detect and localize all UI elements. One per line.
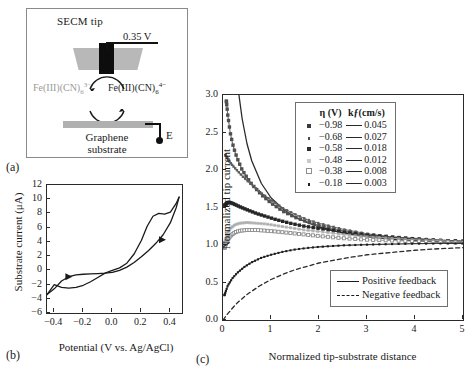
panel-b-x-tick <box>169 308 170 312</box>
kinetics-legend-marker-icon <box>301 131 317 143</box>
panel-c-y-tick-label: 2.5 <box>192 126 218 137</box>
kinetics-legend: η (V) kƒ(cm/s) −0.980.045−0.680.027−0.58… <box>295 102 396 193</box>
panel-c-x-tick <box>270 315 271 319</box>
species-left-superscript: 3− <box>84 81 91 89</box>
kinetics-legend-kf-value: 0.027 <box>364 131 387 142</box>
panel-b-y-tick <box>46 298 50 299</box>
positive-feedback-line-icon <box>337 281 359 282</box>
negative-feedback-line-icon <box>337 295 359 296</box>
panel-label-b: (b) <box>6 348 20 363</box>
kinetics-legend-kf-value: 0.012 <box>364 154 387 165</box>
kinetics-legend-eta-value: −0.98 <box>317 119 344 131</box>
panel-c-approach-curves: 0.00.51.01.52.02.53.0012345 Normalized t… <box>190 88 474 381</box>
kinetics-legend-eta-value: −0.68 <box>317 131 344 143</box>
panel-b-x-tick-label: −0.4 <box>38 316 68 327</box>
panel-c-x-axis-title: Normalized tip-substrate distance <box>210 350 474 362</box>
legend-header-kf: kƒ(cm/s) <box>344 106 389 119</box>
legend-header-spacer <box>301 106 317 119</box>
kinetics-legend-line-icon <box>346 171 362 172</box>
tip-potential-label: 0.35 V <box>123 31 151 42</box>
panel-c-y-tick-label: 2.0 <box>192 163 218 174</box>
panel-c-y-tick-label: 1.5 <box>192 201 218 212</box>
panel-b-curves <box>47 185 182 313</box>
panel-b-x-tick-label: 0.0 <box>96 316 126 327</box>
kinetics-legend-body: −0.980.045−0.680.027−0.580.018−0.480.012… <box>301 119 389 188</box>
graphene-substrate-icon <box>63 121 153 128</box>
kinetics-legend-eta-value: −0.58 <box>317 142 344 154</box>
kinetics-legend-line-icon <box>346 148 362 149</box>
panel-b-y-tick <box>46 269 50 270</box>
kinetics-legend-eta-value: −0.38 <box>317 165 344 177</box>
kinetics-legend-kf-cell: 0.003 <box>344 177 389 189</box>
panel-c-x-tick-label: 1 <box>258 323 282 334</box>
panel-c-x-tick <box>318 315 319 319</box>
panel-b-x-tick-label: −0.2 <box>67 316 97 327</box>
panel-label-a: (a) <box>6 160 19 175</box>
kinetics-legend-kf-cell: 0.012 <box>344 154 389 166</box>
kinetics-legend-line-icon <box>346 160 362 161</box>
panel-c-x-tick-label: 2 <box>306 323 330 334</box>
species-right-formula: Fe(III)(CN) <box>108 82 155 93</box>
panel-c-x-tick-label: 0 <box>210 323 234 334</box>
panel-b-x-axis-title: Potential (V vs. Ag/AgCl) <box>36 341 196 353</box>
panel-b-y-tick <box>46 284 50 285</box>
panel-b-y-tick <box>46 312 50 313</box>
tip-wire-icon <box>106 42 158 44</box>
feedback-legend-item-positive: Positive feedback <box>337 274 440 288</box>
kinetics-legend-marker-icon <box>301 154 317 166</box>
panel-c-y-axis-title: Normalized tip current <box>220 109 232 289</box>
kinetics-legend-line-icon <box>346 137 362 138</box>
kinetics-legend-row: −0.680.027 <box>301 131 389 143</box>
kinetics-legend-table: η (V) kƒ(cm/s) −0.980.045−0.680.027−0.58… <box>301 106 389 188</box>
substrate-caption-line2: substrate <box>27 143 187 155</box>
kinetics-legend-marker-icon <box>301 142 317 154</box>
kinetics-legend-kf-value: 0.045 <box>364 119 387 130</box>
species-left-subscript: 6 <box>80 88 84 96</box>
panel-b-y-tick <box>46 227 50 228</box>
kinetics-legend-line-icon <box>346 183 362 184</box>
kinetics-legend-row: −0.180.003 <box>301 177 389 189</box>
panel-c-y-tick-label: 3.0 <box>192 88 218 99</box>
kinetics-legend-row: −0.980.045 <box>301 119 389 131</box>
negative-feedback-label: Negative feedback <box>362 289 440 300</box>
kinetics-legend-marker-icon <box>301 177 317 189</box>
panel-b-plot-frame <box>46 184 183 314</box>
panel-b-x-tick <box>140 308 141 312</box>
tip-wire-vertical-icon <box>106 42 108 50</box>
species-oxidized-label: Fe(III)(CN)63− <box>33 81 91 96</box>
panel-a-schematic: SECM tip 0.35 V Fe(III)(CN)63− Fe(III)(C… <box>26 8 188 158</box>
kinetics-legend-kf-cell: 0.027 <box>344 131 389 143</box>
kinetics-legend-kf-cell: 0.008 <box>344 165 389 177</box>
figure-root: SECM tip 0.35 V Fe(III)(CN)63− Fe(III)(C… <box>0 0 474 381</box>
kinetics-legend-eta-value: −0.18 <box>317 177 344 189</box>
feedback-legend: Positive feedback Negative feedback <box>330 270 448 307</box>
panel-c-y-tick-label: 0.5 <box>192 276 218 287</box>
species-right-subscript: 6 <box>155 88 159 96</box>
species-right-superscript: 4− <box>159 81 166 89</box>
kinetics-legend-line-icon <box>346 125 362 126</box>
kinetics-legend-header-row: η (V) kƒ(cm/s) <box>301 106 389 119</box>
feedback-legend-item-negative: Negative feedback <box>337 288 440 302</box>
panel-b-x-tick-label: 0.2 <box>125 316 155 327</box>
panel-c-x-tick-label: 3 <box>354 323 378 334</box>
kinetics-legend-kf-value: 0.008 <box>364 165 387 176</box>
panel-b-y-tick <box>46 212 50 213</box>
panel-c-x-tick <box>366 315 367 319</box>
legend-header-eta: η (V) <box>317 106 344 119</box>
kinetics-legend-kf-cell: 0.018 <box>344 142 389 154</box>
kinetics-legend-row: −0.380.008 <box>301 165 389 177</box>
panel-b-x-tick <box>53 308 54 312</box>
panel-c-x-tick-label: 4 <box>402 323 426 334</box>
panel-b-y-tick <box>46 255 50 256</box>
panel-c-x-tick <box>462 315 463 319</box>
panel-b-x-tick-label: 0.4 <box>154 316 184 327</box>
panel-c-x-tick <box>414 315 415 319</box>
panel-b-y-axis-title: Substrate current (μA) <box>12 182 24 302</box>
positive-feedback-label: Positive feedback <box>362 275 436 286</box>
species-left-formula: Fe(III)(CN) <box>33 82 80 93</box>
kinetics-legend-row: −0.580.018 <box>301 142 389 154</box>
panel-b-y-tick <box>46 184 50 185</box>
panel-b-y-tick <box>46 241 50 242</box>
substrate-caption-line1: Graphene <box>27 131 187 143</box>
kinetics-legend-kf-cell: 0.045 <box>344 119 389 131</box>
